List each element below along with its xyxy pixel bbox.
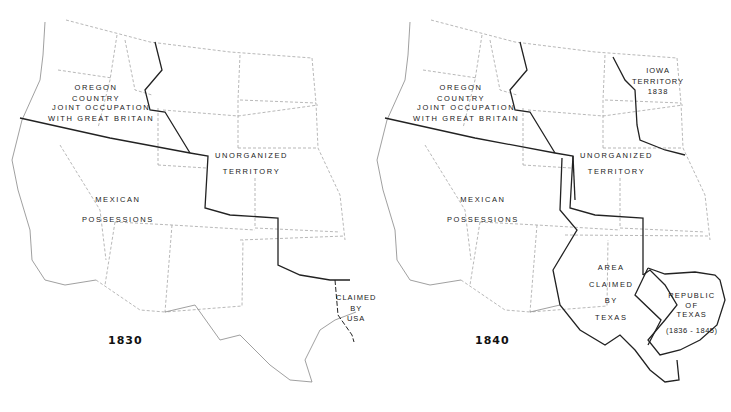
label-unorganized-territory: UNORGANIZEDTERRITORY — [580, 152, 653, 175]
label-joint-occupation: JOINT OCCUPATIONWITH GREAT BRITAIN — [48, 104, 154, 122]
label-oregon-country: OREGONCOUNTRY — [437, 84, 485, 102]
label-oregon-country: OREGONCOUNTRY — [72, 84, 120, 102]
year-label: 1840 — [475, 334, 510, 347]
year-label: 1830 — [108, 334, 143, 347]
label-mexican-possessions: MEXICANPOSSESSIONS — [447, 196, 519, 223]
map-1830-outline — [0, 0, 366, 412]
label-area-claimed-by-texas: AREACLAIMEDBYTEXAS — [589, 264, 634, 321]
map-1830: OREGONCOUNTRY JOINT OCCUPATIONWITH GREAT… — [0, 0, 366, 412]
label-iowa-territory: IOWATERRITORY1838 — [632, 67, 684, 96]
map-1840: OREGONCOUNTRY JOINT OCCUPATIONWITH GREAT… — [365, 0, 731, 412]
label-mexican-possessions: MEXICANPOSSESSIONS — [82, 196, 154, 223]
label-unorganized-territory: UNORGANIZEDTERRITORY — [215, 152, 288, 175]
label-joint-occupation: JOINT OCCUPATIONWITH GREAT BRITAIN — [413, 104, 519, 122]
label-republic-of-texas: REPUBLICOFTEXAS(1836 - 1845) — [666, 292, 718, 334]
map-1840-outline — [365, 0, 731, 412]
